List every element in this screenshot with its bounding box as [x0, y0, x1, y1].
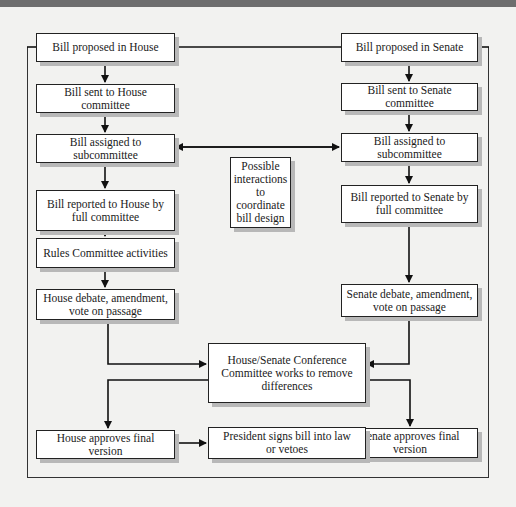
- interaction-note-box: Possible interactions to coordinate bill…: [230, 157, 291, 228]
- president-box: President signs bill into law or vetoes: [208, 427, 366, 459]
- house-approves-box: House approves final version: [36, 430, 175, 459]
- senate-debate-box: Senate debate, amendment, vote on passag…: [341, 284, 478, 317]
- house-assigned-box: Bill assigned to subcommittee: [36, 134, 175, 163]
- house-proposed-box: Bill proposed in House: [36, 33, 175, 62]
- senate-assigned-box: Bill assigned to subcommittee: [341, 133, 478, 162]
- senate-reported-box: Bill reported to Senate by full committe…: [341, 185, 478, 223]
- house-reported-box: Bill reported to House by full committee: [36, 190, 175, 231]
- house-rules-box: Rules Committee activities: [36, 238, 175, 268]
- senate-proposed-box: Bill proposed in Senate: [341, 33, 478, 62]
- conference-committee-box: House/Senate Conference Committee works …: [208, 343, 366, 403]
- senate-sent-box: Bill sent to Senate committee: [341, 83, 478, 111]
- house-sent-box: Bill sent to House committee: [36, 84, 175, 113]
- house-debate-box: House debate, amendment, vote on passage: [36, 289, 175, 320]
